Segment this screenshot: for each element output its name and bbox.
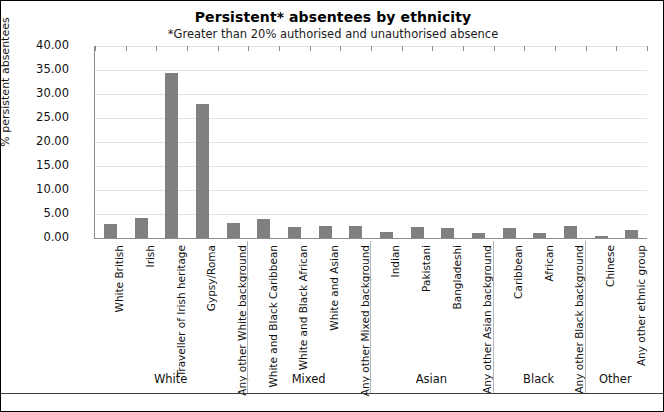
y-axis-tick-label: 35.00 xyxy=(9,64,69,75)
x-axis-tick xyxy=(647,46,648,51)
x-axis-category-label: Irish xyxy=(145,245,156,267)
x-axis-tick xyxy=(586,46,587,51)
group-label: White xyxy=(94,373,247,386)
x-axis-category-label: Any other ethnic group xyxy=(636,245,647,366)
bar xyxy=(533,233,546,238)
y-axis-tick-label: 15.00 xyxy=(9,160,69,171)
x-axis-category-label: White and Black African xyxy=(298,245,309,370)
chart-title: Persistent* absentees by ethnicity xyxy=(1,9,664,26)
bar xyxy=(472,233,485,238)
bar xyxy=(104,224,117,238)
x-axis-tick xyxy=(463,46,464,51)
bar xyxy=(135,218,148,238)
bar xyxy=(319,226,332,238)
x-axis-category-label: White and Black Caribbean xyxy=(268,245,279,388)
x-axis-category-label: Caribbean xyxy=(513,245,524,299)
x-axis-tick xyxy=(555,46,556,51)
x-axis-category-label: White British xyxy=(114,245,125,312)
group-separator xyxy=(493,241,494,393)
group-label: Other xyxy=(585,373,646,386)
x-axis-category-label: Indian xyxy=(390,245,401,277)
x-axis-tick xyxy=(310,46,311,51)
y-axis-tick-label: 30.00 xyxy=(9,88,69,99)
bar xyxy=(564,226,577,238)
x-axis-tick xyxy=(524,46,525,51)
bar xyxy=(595,236,608,238)
group-separator xyxy=(370,241,371,393)
x-axis-category-label: Traveller of Irish heritage xyxy=(176,245,187,377)
x-axis-category-label: White and Asian xyxy=(329,245,340,331)
gridline xyxy=(95,70,647,71)
bar xyxy=(288,227,301,238)
group-separator xyxy=(247,241,248,393)
x-axis-tick xyxy=(371,46,372,51)
y-axis-tick-label: 5.00 xyxy=(9,208,69,219)
x-axis-tick xyxy=(95,46,96,51)
bar xyxy=(227,223,240,238)
x-axis-tick xyxy=(279,46,280,51)
x-axis-category-label: Bangladeshi xyxy=(452,245,463,309)
bar xyxy=(411,227,424,238)
bar xyxy=(196,104,209,238)
y-axis-tick-label: 0.00 xyxy=(9,232,69,243)
bar xyxy=(441,228,454,238)
x-axis-category-label: Chinese xyxy=(605,245,616,287)
bar xyxy=(625,230,638,238)
x-axis-tick xyxy=(156,46,157,51)
x-axis-category-label: African xyxy=(544,245,555,282)
bar xyxy=(503,228,516,238)
x-axis-tick xyxy=(248,46,249,51)
x-axis-tick xyxy=(432,46,433,51)
title-block: Persistent* absentees by ethnicity *Grea… xyxy=(1,9,664,42)
chart-subtitle: *Greater than 20% authorised and unautho… xyxy=(1,27,664,42)
group-separator xyxy=(585,241,586,393)
y-axis-tick-label: 20.00 xyxy=(9,136,69,147)
chart-container: Persistent* absentees by ethnicity *Grea… xyxy=(0,0,664,412)
x-axis-category-label: Pakistani xyxy=(421,245,432,292)
x-axis-category-label: Gypsy/Roma xyxy=(206,245,217,311)
x-axis-tick xyxy=(340,46,341,51)
group-label: Mixed xyxy=(247,373,370,386)
y-axis-tick-label: 40.00 xyxy=(9,40,69,51)
x-axis-tick xyxy=(402,46,403,51)
x-axis-tick xyxy=(494,46,495,51)
bar xyxy=(349,226,362,238)
group-label: Asian xyxy=(370,373,493,386)
y-axis-tick-label: 25.00 xyxy=(9,112,69,123)
bar xyxy=(165,73,178,238)
x-axis-tick xyxy=(126,46,127,51)
bar xyxy=(257,219,270,238)
group-label: Black xyxy=(493,373,585,386)
bar xyxy=(380,232,393,238)
plot-area: % persistent absentees 0.005.0010.0015.0… xyxy=(94,46,647,239)
bottom-rule xyxy=(1,393,664,394)
x-axis-tick xyxy=(187,46,188,51)
x-axis-tick xyxy=(616,46,617,51)
y-axis-tick-label: 10.00 xyxy=(9,184,69,195)
x-axis-tick xyxy=(218,46,219,51)
